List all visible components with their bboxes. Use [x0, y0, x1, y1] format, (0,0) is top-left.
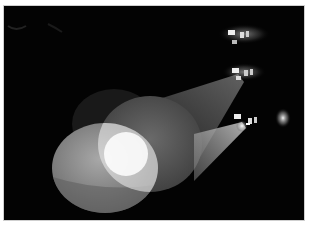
spotlight-middle [222, 63, 266, 81]
lens-flare [275, 108, 291, 128]
spotlight-top [218, 24, 270, 44]
spotlight-bottom [234, 114, 257, 132]
spotlight-photo [4, 6, 304, 220]
spotlight-scene [4, 6, 304, 220]
